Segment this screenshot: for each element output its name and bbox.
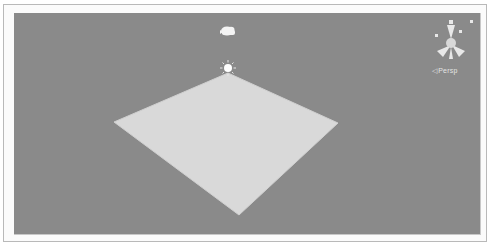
scene-canvas[interactable]	[14, 13, 481, 235]
directional-light-icon[interactable]	[220, 60, 236, 76]
scene-orientation-gizmo-icon[interactable]	[427, 15, 479, 67]
scene-viewport[interactable]: ◁Persp	[14, 13, 481, 235]
gizmo-neg-y-axis[interactable]	[449, 47, 453, 59]
gizmo-extra	[470, 20, 473, 23]
gizmo-neg-x[interactable]	[435, 34, 438, 37]
plane-object[interactable]	[114, 73, 338, 215]
projection-arrow-icon: ◁	[432, 67, 437, 74]
camera-icon[interactable]	[220, 27, 235, 36]
gizmo-neg-z[interactable]	[459, 30, 462, 33]
projection-toggle[interactable]: ◁Persp	[432, 67, 458, 75]
gizmo-y-axis[interactable]	[447, 25, 455, 39]
gizmo-center[interactable]	[446, 38, 456, 48]
gizmo-y-tip	[449, 20, 453, 24]
projection-label: Persp	[438, 67, 457, 74]
